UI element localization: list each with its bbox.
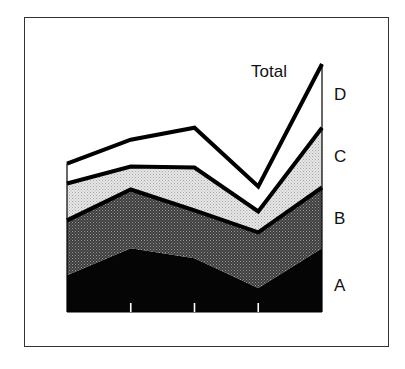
series-label-d: D — [334, 85, 346, 104]
series-label-total: Total — [251, 62, 287, 81]
area-layers — [67, 64, 322, 312]
stacked-area-chart: Total D C B A — [0, 0, 405, 369]
series-label-b: B — [334, 209, 345, 228]
series-label-a: A — [334, 276, 346, 295]
series-label-c: C — [334, 147, 346, 166]
